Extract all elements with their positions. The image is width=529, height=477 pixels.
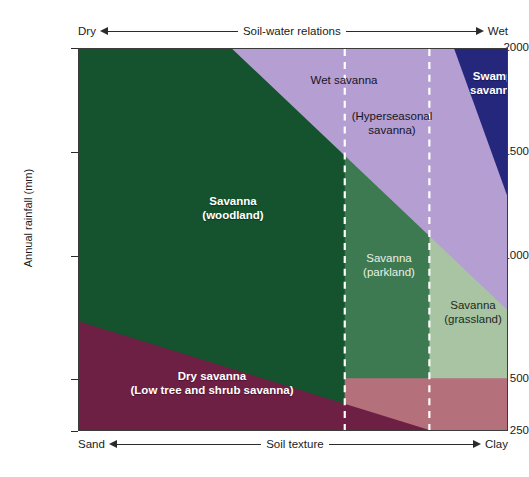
top-axis-soil-water-relations: Dry Soil-water relations Wet bbox=[78, 24, 508, 38]
bottom-axis-right-label: Clay bbox=[485, 438, 508, 450]
bottom-axis-left-label: Sand bbox=[78, 438, 105, 450]
savanna-regions-svg bbox=[79, 49, 507, 430]
top-axis-left-label: Dry bbox=[78, 25, 96, 37]
savanna-diagram: Dry Soil-water relations Wet Annual rain… bbox=[0, 0, 529, 477]
arrow-left-icon bbox=[100, 27, 108, 35]
plot-area: Savanna (woodland) Dry savanna (Low tree… bbox=[78, 48, 508, 431]
arrow-right-icon bbox=[473, 440, 481, 448]
top-axis-right-label: Wet bbox=[488, 25, 508, 37]
bottom-axis-title: Soil texture bbox=[261, 438, 329, 450]
bottom-axis-soil-texture: Sand Soil texture Clay bbox=[78, 437, 508, 451]
y-tick-mark-250 bbox=[71, 431, 78, 432]
y-axis-label: Annual rainfall (mm) bbox=[22, 143, 34, 293]
y-tick-mark-1500 bbox=[71, 152, 78, 153]
y-tick-mark-2000 bbox=[71, 48, 78, 49]
top-axis-title: Soil-water relations bbox=[238, 25, 346, 37]
bottom-axis-arrow-line: Soil texture bbox=[109, 439, 481, 450]
top-axis-arrow-line: Soil-water relations bbox=[100, 26, 484, 37]
y-tick-mark-1000 bbox=[71, 256, 78, 257]
y-tick-mark-500 bbox=[71, 379, 78, 380]
arrow-left-icon bbox=[109, 440, 117, 448]
arrow-right-icon bbox=[476, 27, 484, 35]
